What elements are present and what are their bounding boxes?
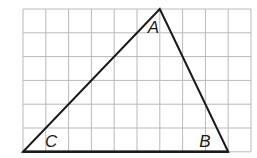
triangle-grid-diagram: A B C [0, 0, 257, 158]
vertex-label-b: B [199, 132, 210, 151]
vertex-label-c: C [45, 132, 58, 151]
vertex-label-a: A [147, 18, 159, 37]
square-grid [23, 9, 251, 152]
